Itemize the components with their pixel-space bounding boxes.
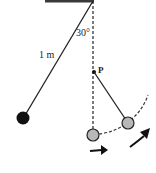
pendulum-diagram: 30° 1 m P [0, 0, 156, 173]
bob-swinging [122, 117, 134, 129]
string-about-peg [94, 72, 126, 120]
arrow-curved-up-icon [130, 128, 150, 147]
ceiling-support [45, 0, 94, 3]
angle-label: 30° [76, 27, 90, 38]
arrow-right-icon [90, 145, 108, 155]
bob-initial [17, 112, 30, 125]
dashed-arc-path [99, 95, 148, 134]
length-label: 1 m [39, 49, 55, 60]
peg-label: P [98, 65, 104, 75]
bob-lowest [87, 129, 99, 141]
string-initial [24, 1, 93, 117]
